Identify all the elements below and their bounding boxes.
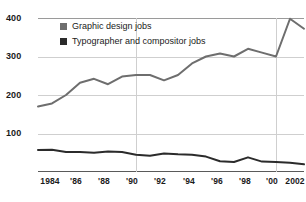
y-tick-300: 300 <box>6 51 21 61</box>
legend-swatch-icon-typographer <box>60 38 67 45</box>
x-tick-1998: '98 <box>239 176 251 186</box>
legend-item-graphic-design: Graphic design jobs <box>60 20 206 33</box>
legend-swatch-icon-graphic-design <box>60 23 67 30</box>
x-tick-1992: '92 <box>154 176 166 186</box>
line-chart: 400 300 200 100 1984 '86 '88 '90 '92 '94… <box>0 0 306 202</box>
x-tick-1988: '88 <box>98 176 110 186</box>
x-tick-2002: 2002 <box>285 176 304 186</box>
y-tick-100: 100 <box>6 128 21 138</box>
series-line-2 <box>38 150 304 165</box>
legend-label-typographer: Typographer and compositor jobs <box>72 36 206 47</box>
y-tick-400: 400 <box>6 13 21 23</box>
x-tick-1994: '94 <box>183 176 195 186</box>
legend-label-graphic-design: Graphic design jobs <box>72 21 152 32</box>
legend-item-typographer: Typographer and compositor jobs <box>60 35 206 48</box>
x-tick-1986: '86 <box>70 176 82 186</box>
legend: Graphic design jobs Typographer and comp… <box>60 20 206 50</box>
x-tick-1996: '96 <box>211 176 223 186</box>
y-tick-200: 200 <box>6 90 21 100</box>
x-tick-1984: 1984 <box>40 176 59 186</box>
x-tick-1990: '90 <box>126 176 138 186</box>
x-tick-2000: '00 <box>266 176 278 186</box>
